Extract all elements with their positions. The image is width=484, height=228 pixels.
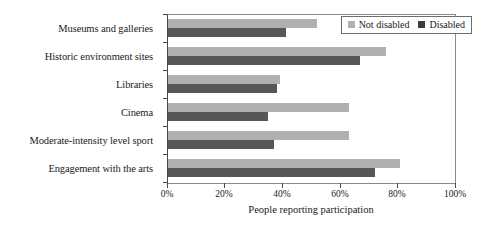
bar-not-disabled: [168, 103, 349, 112]
category-label: Moderate-intensity level sport: [0, 126, 160, 154]
bar-not-disabled: [168, 75, 280, 84]
x-axis-tick-label: 40%: [273, 189, 290, 199]
x-axis-tick: [455, 183, 456, 188]
category-label: Libraries: [0, 70, 160, 98]
category-label: Engagement with the arts: [0, 154, 160, 182]
x-axis-tick: [397, 183, 398, 188]
category-axis: Museums and galleries Historic environme…: [0, 14, 160, 182]
bar-not-disabled: [168, 131, 349, 140]
legend-item-disabled: Disabled: [418, 19, 465, 30]
x-axis-tick-label: 60%: [331, 189, 348, 199]
x-axis-tick-label: 20%: [215, 189, 232, 199]
x-axis-tick: [340, 183, 341, 188]
legend-item-not-disabled: Not disabled: [348, 19, 410, 30]
bar-disabled: [168, 28, 286, 37]
x-axis-tick-label: 80%: [388, 189, 405, 199]
legend-label: Not disabled: [359, 19, 410, 30]
bar-disabled: [168, 56, 360, 65]
x-axis-tick: [282, 183, 283, 188]
category-label: Historic environment sites: [0, 42, 160, 70]
x-axis-tick: [224, 183, 225, 188]
legend-swatch-icon: [418, 21, 425, 28]
chart-legend: Not disabled Disabled: [341, 16, 472, 34]
x-axis-tick-label: 0%: [161, 189, 174, 199]
category-label: Museums and galleries: [0, 14, 160, 42]
bar-not-disabled: [168, 159, 400, 168]
x-axis-title: People reporting participation: [167, 204, 455, 215]
bar-disabled: [168, 140, 274, 149]
x-axis-tick: [167, 183, 168, 188]
bar-not-disabled: [168, 19, 317, 28]
bar-group: [168, 70, 455, 98]
bar-disabled: [168, 112, 268, 121]
bar-not-disabled: [168, 47, 386, 56]
legend-swatch-icon: [348, 21, 355, 28]
x-axis-tick-label: 100%: [444, 189, 466, 199]
bars-area: [168, 14, 455, 182]
bar-group: [168, 42, 455, 70]
bar-group: [168, 154, 455, 182]
bar-disabled: [168, 84, 277, 93]
bar-chart: Museums and galleries Historic environme…: [0, 0, 484, 228]
legend-label: Disabled: [429, 19, 465, 30]
bar-disabled: [168, 168, 375, 177]
bar-group: [168, 98, 455, 126]
category-label: Cinema: [0, 98, 160, 126]
bar-group: [168, 126, 455, 154]
